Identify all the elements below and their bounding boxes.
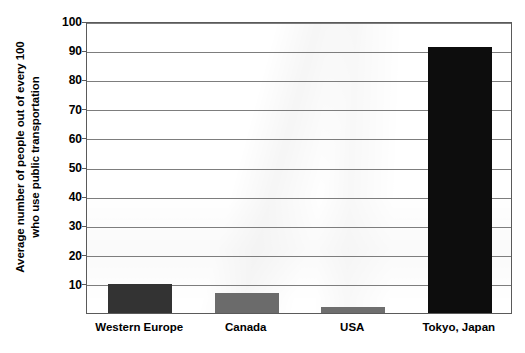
y-tick-mark-70	[82, 109, 86, 110]
x-tick-label-2: USA	[299, 320, 406, 334]
y-axis-title-line-1: Average number of people out of every 10…	[13, 41, 28, 272]
y-tick-label-30: 30	[54, 220, 82, 232]
y-tick-mark-30	[82, 226, 86, 227]
y-tick-label-60: 60	[54, 133, 82, 145]
y-tick-label-90: 90	[54, 45, 82, 57]
y-tick-mark-50	[82, 168, 86, 169]
y-tick-label-70: 70	[54, 104, 82, 116]
y-tick-mark-80	[82, 80, 86, 81]
bar-western-europe	[108, 284, 172, 313]
bar-tokyo-japan	[428, 47, 492, 313]
plot-area	[86, 22, 512, 314]
y-tick-label-100: 100	[54, 16, 82, 28]
x-tick-label-0: Western Europe	[86, 320, 193, 334]
x-tick-label-3: Tokyo, Japan	[406, 320, 513, 334]
bar-chart: Average number of people out of every 10…	[0, 0, 525, 353]
y-tick-label-80: 80	[54, 74, 82, 86]
y-axis-title-line-2: who use public transportation	[28, 76, 43, 237]
y-tick-mark-10	[82, 284, 86, 285]
y-axis-title: Average number of people out of every 10…	[0, 0, 56, 320]
y-tick-label-50: 50	[54, 162, 82, 174]
y-tick-label-10: 10	[54, 279, 82, 291]
y-axis-tick-labels: 102030405060708090100	[50, 0, 82, 353]
y-tick-mark-40	[82, 197, 86, 198]
x-tick-label-1: Canada	[193, 320, 300, 334]
y-tick-mark-60	[82, 138, 86, 139]
y-tick-mark-20	[82, 255, 86, 256]
gridline-100	[87, 23, 511, 24]
y-tick-mark-100	[82, 22, 86, 23]
y-tick-mark-90	[82, 51, 86, 52]
bar-canada	[215, 293, 279, 313]
bar-usa	[321, 307, 385, 313]
y-tick-label-40: 40	[54, 191, 82, 203]
y-tick-label-20: 20	[54, 250, 82, 262]
